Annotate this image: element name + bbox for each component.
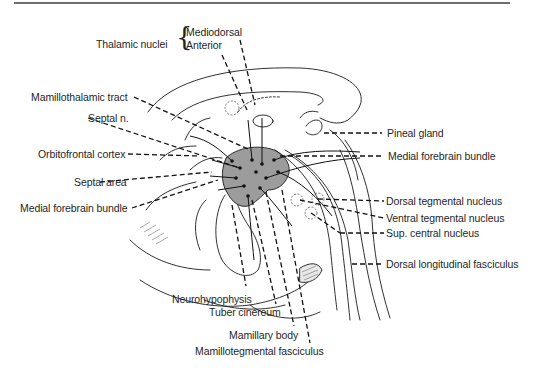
brain-drawing: [0, 0, 541, 376]
label-septal-area: Septal area: [74, 176, 127, 188]
label-sup-central-nucleus: Sup. central nucleus: [386, 227, 479, 239]
diagram-figure: Thalamic nuclei { Mediodorsal Anterior M…: [0, 0, 541, 376]
label-dorsal-longitudinal-fasciculus: Dorsal longitudinal fasciculus: [386, 258, 518, 270]
pineal-gland-shape: [306, 120, 322, 135]
label-mamillothalamic-tract: Mamillothalamic tract: [31, 91, 128, 103]
hatching: [140, 222, 318, 280]
label-septal-n: Septal n.: [88, 112, 129, 124]
label-orbitofrontal-cortex: Orbitofrontal cortex: [38, 148, 125, 160]
label-pineal-gland: Pineal gland: [387, 127, 444, 139]
label-ventral-tegmental-nucleus: Ventral tegmental nucleus: [386, 212, 504, 224]
label-mamillary-body: Mamillary body: [229, 329, 298, 341]
label-mediodorsal: Mediodorsal: [186, 26, 242, 38]
label-mamillotegmental-fasciculus: Mamillotegmental fasciculus: [195, 345, 324, 357]
label-medial-forebrain-bundle-right: Medial forebrain bundle: [388, 150, 495, 162]
label-dorsal-tegmental-nucleus: Dorsal tegmental nucleus: [386, 195, 502, 207]
label-medial-forebrain-bundle-left: Medial forebrain bundle: [20, 202, 127, 214]
corpus-callosum-outline: [148, 68, 361, 123]
label-thalamic-nuclei: Thalamic nuclei: [96, 38, 167, 50]
hypothalamus-shaded-region: [222, 147, 289, 206]
label-neurohypophysis: Neurohypophysis: [172, 293, 252, 305]
label-anterior: Anterior: [186, 39, 222, 51]
label-tuber-cinereum: Tuber cinereum: [209, 306, 281, 318]
